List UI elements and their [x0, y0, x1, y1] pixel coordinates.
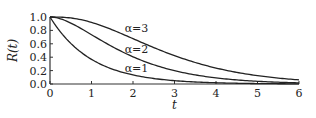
curve-label: α=1 [125, 62, 149, 75]
y-tick-label: 0.4 [30, 51, 48, 64]
y-tick-label: 0.0 [30, 78, 48, 91]
y-axis-label: R(t) [6, 39, 20, 64]
y-tick-label: 0.8 [30, 24, 48, 37]
series-line-α=2 [50, 17, 299, 83]
x-tick-label: 4 [213, 87, 220, 100]
x-tick-label: 2 [130, 87, 137, 100]
y-tick-label: 0.2 [30, 65, 48, 78]
x-tick-label: 0 [47, 87, 54, 100]
x-tick-label: 1 [88, 87, 95, 100]
x-tick-label: 6 [296, 87, 303, 100]
curve-label: α=2 [125, 43, 149, 56]
y-tick-label: 0.6 [30, 38, 48, 51]
reliability-chart: 01234560.00.20.40.60.81.0α=3α=2α=1tR(t) [0, 0, 316, 118]
y-tick-label: 1.0 [30, 11, 48, 24]
curve-label: α=3 [125, 22, 149, 35]
x-axis-label: t [172, 98, 177, 112]
series-line-α=1 [50, 17, 299, 84]
x-tick-label: 5 [254, 87, 261, 100]
